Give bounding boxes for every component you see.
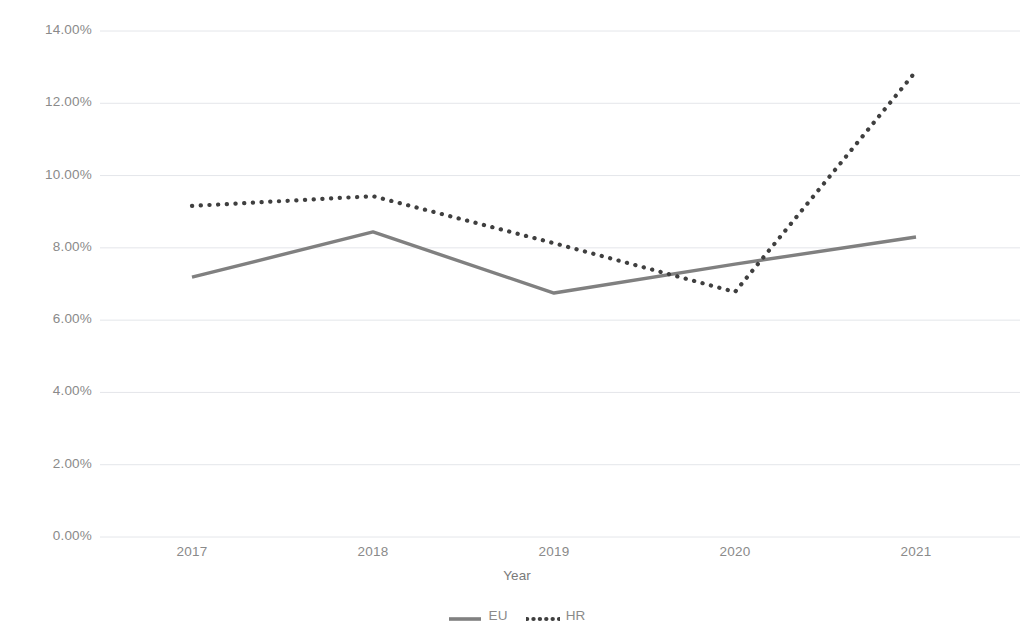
chart-legend: EUHR <box>0 608 1034 623</box>
x-axis-title: Year <box>0 568 1034 583</box>
legend-item-hr[interactable]: HR <box>526 608 586 623</box>
x-axis-tick-label: 2018 <box>328 544 418 559</box>
legend-label: HR <box>566 608 586 623</box>
dotted-line-swatch <box>526 610 560 621</box>
x-axis-tick-label: 2020 <box>690 544 780 559</box>
legend-item-eu[interactable]: EU <box>448 608 507 623</box>
x-axis-tick-label: 2021 <box>871 544 961 559</box>
legend-label: EU <box>488 608 507 623</box>
x-axis-tick-label: 2017 <box>147 544 237 559</box>
line-chart: Relative change in DESI index 0.00%2.00%… <box>0 0 1034 643</box>
series-line-hr <box>192 71 916 292</box>
series-line-eu <box>192 232 916 293</box>
solid-line-swatch <box>448 610 482 621</box>
x-axis-tick-label: 2019 <box>509 544 599 559</box>
